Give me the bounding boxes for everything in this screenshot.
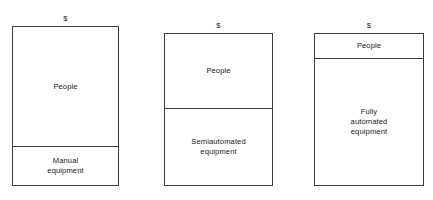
dollar-axis-label: $ bbox=[12, 14, 119, 23]
segment-manual-equipment-label: Manual equipment bbox=[45, 156, 85, 176]
segment-people: People bbox=[165, 34, 272, 108]
segment-people-label: People bbox=[204, 66, 232, 76]
panel-semiautomated-equipment: $ People Semiautomated equipment bbox=[164, 21, 273, 186]
segment-people: People bbox=[13, 27, 118, 146]
segment-fully-automated-equipment-label: Fully automated equipment bbox=[349, 107, 390, 137]
segment-people-label: People bbox=[51, 82, 79, 92]
dollar-axis-label: $ bbox=[164, 21, 273, 30]
segment-fully-automated-equipment: Fully automated equipment bbox=[315, 58, 423, 185]
bar-manual-equipment: People Manual equipment bbox=[12, 26, 119, 186]
dollar-axis-label: $ bbox=[314, 21, 424, 30]
stacked-bar-comparison-diagram: $ People Manual equipment $ People Semia… bbox=[0, 0, 433, 200]
segment-manual-equipment: Manual equipment bbox=[13, 146, 118, 185]
segment-people-label: People bbox=[355, 41, 383, 51]
bar-fully-automated-equipment: People Fully automated equipment bbox=[314, 33, 424, 186]
segment-semiautomated-equipment-label: Semiautomated equipment bbox=[189, 137, 248, 157]
panel-manual-equipment: $ People Manual equipment bbox=[12, 14, 119, 186]
segment-semiautomated-equipment: Semiautomated equipment bbox=[165, 108, 272, 186]
panel-fully-automated-equipment: $ People Fully automated equipment bbox=[314, 21, 424, 186]
bar-semiautomated-equipment: People Semiautomated equipment bbox=[164, 33, 273, 186]
segment-people: People bbox=[315, 34, 423, 58]
